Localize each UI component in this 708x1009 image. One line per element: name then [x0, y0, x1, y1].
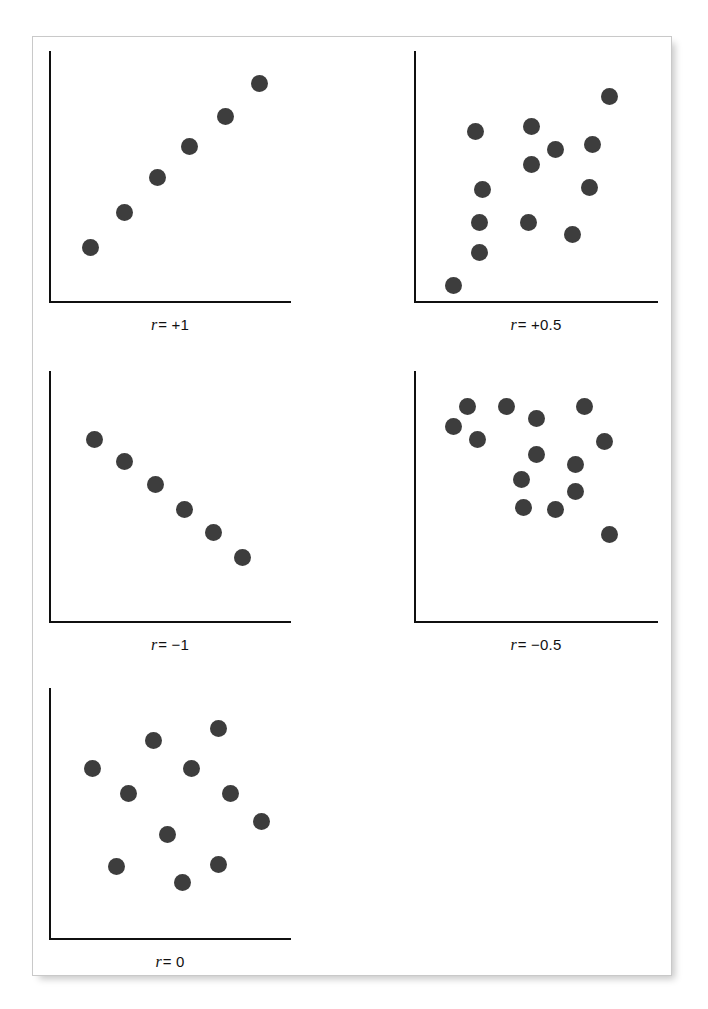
scatter-point: [176, 501, 193, 518]
scatter-point: [471, 214, 488, 231]
caption-value: = −0.5: [518, 636, 562, 653]
y-axis-line: [414, 51, 416, 303]
scatter-point: [523, 156, 540, 173]
y-axis-line: [49, 688, 51, 940]
scatter-point: [528, 446, 545, 463]
y-axis-line: [49, 51, 51, 303]
scatter-point: [547, 501, 564, 518]
scatter-point: [217, 108, 234, 125]
plot-area: [49, 51, 291, 303]
caption-value: = +0.5: [518, 316, 562, 333]
scatterplot-panel-r-minus-1: r= −1: [49, 371, 305, 677]
scatter-point: [474, 181, 491, 198]
scatter-point: [234, 549, 251, 566]
scatter-point: [174, 874, 191, 891]
scatter-point: [601, 88, 618, 105]
scatter-point: [183, 760, 200, 777]
panel-caption-r-plus-0-5: r= +0.5: [414, 317, 658, 333]
scatter-point: [159, 826, 176, 843]
scatter-point: [205, 524, 222, 541]
caption-variable: r: [511, 636, 518, 653]
scatter-point: [581, 179, 598, 196]
scatter-point: [564, 226, 581, 243]
scatter-point: [513, 471, 530, 488]
scatter-point: [210, 720, 227, 737]
panel-caption-r-zero: r= 0: [49, 954, 291, 970]
scatter-point: [469, 431, 486, 448]
scatter-point: [445, 277, 462, 294]
scatter-point: [145, 732, 162, 749]
scatterplot-panel-r-plus-0-5: r= +0.5: [414, 51, 670, 357]
scatter-point: [251, 75, 268, 92]
panel-caption-r-plus-1: r= +1: [49, 317, 291, 333]
plot-area: [49, 688, 291, 940]
scatter-point: [584, 136, 601, 153]
figure-card: r= +1 r= +0.5 r= −1 r= −0.5: [32, 36, 672, 976]
scatter-point: [116, 453, 133, 470]
scatter-point: [210, 856, 227, 873]
plot-area: [414, 51, 658, 303]
scatter-point: [515, 499, 532, 516]
scatter-point: [116, 204, 133, 221]
scatter-point: [523, 118, 540, 135]
y-axis-line: [49, 371, 51, 623]
scatter-point: [82, 239, 99, 256]
scatterplot-panel-r-plus-1: r= +1: [49, 51, 305, 357]
scatter-point: [528, 410, 545, 427]
plot-area: [49, 371, 291, 623]
x-axis-line: [414, 301, 658, 303]
y-axis-line: [414, 371, 416, 623]
scatter-point: [467, 123, 484, 140]
caption-variable: r: [511, 316, 518, 333]
caption-value: = −1: [158, 636, 189, 653]
x-axis-line: [49, 621, 291, 623]
panel-caption-r-minus-1: r= −1: [49, 637, 291, 653]
x-axis-line: [49, 938, 291, 940]
scatter-point: [520, 214, 537, 231]
scatter-point: [222, 785, 239, 802]
caption-value: = 0: [163, 953, 185, 970]
scatter-point: [149, 169, 166, 186]
caption-value: = +1: [158, 316, 189, 333]
scatter-point: [547, 141, 564, 158]
scatter-point: [567, 483, 584, 500]
x-axis-line: [49, 301, 291, 303]
scatterplot-panel-r-zero: r= 0: [49, 688, 305, 994]
plot-area: [414, 371, 658, 623]
scatter-point: [86, 431, 103, 448]
scatter-point: [84, 760, 101, 777]
scatter-point: [459, 398, 476, 415]
scatter-point: [253, 813, 270, 830]
scatter-point: [108, 858, 125, 875]
scatterplot-panel-r-minus-0-5: r= −0.5: [414, 371, 670, 677]
scatter-point: [498, 398, 515, 415]
caption-variable: r: [155, 953, 162, 970]
scatter-point: [601, 526, 618, 543]
scatter-point: [567, 456, 584, 473]
scatter-point: [445, 418, 462, 435]
x-axis-line: [414, 621, 658, 623]
scatter-point: [471, 244, 488, 261]
scatter-point: [147, 476, 164, 493]
scatter-point: [181, 138, 198, 155]
scatter-point: [120, 785, 137, 802]
scatter-point: [596, 433, 613, 450]
panel-caption-r-minus-0-5: r= −0.5: [414, 637, 658, 653]
scatter-point: [576, 398, 593, 415]
